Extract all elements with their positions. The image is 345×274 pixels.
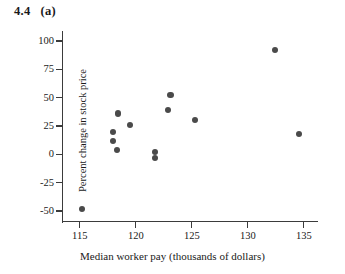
y-axis-tick-label: 25 [44, 121, 55, 131]
y-axis-tick [56, 182, 63, 183]
figure-container: 4.4(a) Percent change in stock price Med… [0, 0, 345, 274]
x-axis-tick [303, 222, 304, 228]
x-axis-label: Median worker pay (thousands of dollars) [0, 250, 345, 262]
y-axis-tick [56, 97, 63, 98]
x-axis-tick [135, 222, 136, 228]
scatter-point [192, 117, 198, 123]
scatter-point [167, 92, 173, 98]
y-axis-tick-label: 50 [44, 93, 55, 103]
scatter-point [110, 138, 116, 144]
y-axis-tick-label: -50 [40, 206, 54, 216]
y-axis-tick [56, 210, 63, 211]
scatter-plot-area: Percent change in stock price [63, 33, 315, 219]
scatter-point [152, 155, 158, 161]
scatter-point [165, 107, 171, 113]
x-axis-tick-label: 115 [60, 231, 100, 241]
x-axis-tick-label: 120 [116, 231, 156, 241]
scatter-point [110, 129, 116, 135]
y-axis-tick-label: -25 [40, 178, 54, 188]
figure-label: 4.4(a) [14, 4, 56, 19]
scatter-point [272, 47, 278, 53]
figure-part: (a) [41, 4, 56, 18]
y-axis-tick-label: 75 [44, 64, 55, 74]
x-axis-tick [79, 222, 80, 228]
scatter-point [114, 147, 120, 153]
scatter-point [127, 122, 133, 128]
y-axis-tick-label: 100 [38, 36, 54, 46]
scatter-point [115, 110, 121, 116]
x-axis-tick-label: 135 [284, 231, 324, 241]
y-axis-label: Percent change in stock price [77, 36, 88, 226]
y-axis-tick-label: 0 [49, 149, 54, 159]
x-axis-line [62, 221, 318, 222]
y-axis-tick [56, 125, 63, 126]
y-axis-tick [56, 40, 63, 41]
x-axis-tick-label: 125 [172, 231, 212, 241]
y-axis-tick [56, 154, 63, 155]
x-axis-tick [247, 222, 248, 228]
figure-number: 4.4 [14, 4, 31, 18]
y-axis-tick [56, 69, 63, 70]
x-axis-tick-label: 130 [228, 231, 268, 241]
x-axis-tick [191, 222, 192, 228]
scatter-point [296, 131, 302, 137]
scatter-point [79, 206, 85, 212]
